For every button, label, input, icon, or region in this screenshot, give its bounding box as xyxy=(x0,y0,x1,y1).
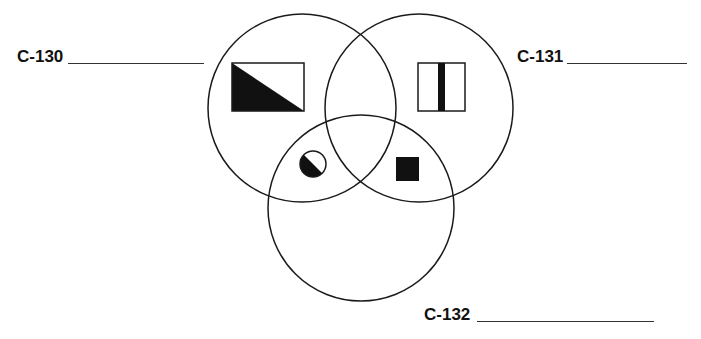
diagonal-half-filled-circle-icon xyxy=(300,151,326,177)
label-c131: C-131 xyxy=(517,48,563,65)
vertical-bar-square-icon xyxy=(418,63,465,111)
venn-diagram xyxy=(0,0,701,339)
diagonal-half-filled-rectangle-icon xyxy=(232,63,304,111)
label-c130: C-130 xyxy=(17,48,63,65)
label-c132: C-132 xyxy=(424,306,470,323)
answer-blank-c130[interactable] xyxy=(68,63,204,64)
circle-c132 xyxy=(268,115,454,301)
answer-blank-c132[interactable] xyxy=(477,321,654,322)
filled-square-icon xyxy=(396,157,419,181)
answer-blank-c131[interactable] xyxy=(567,63,687,64)
